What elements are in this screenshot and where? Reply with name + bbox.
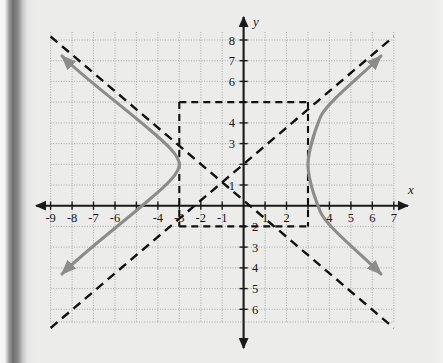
y-tick-label: 7 — [229, 54, 235, 68]
y-tick-labels-positive: 8 7 6 4 3 1 — [229, 34, 236, 193]
x-tick-label: -9 — [45, 211, 55, 225]
y-tick-label: 4 — [229, 116, 236, 130]
hyperbola-graph: y x -9 -8 -7 -6 -4 -3 -2 -1 1 2 4 5 6 7 — [0, 0, 443, 363]
y-tick-label: 4 — [252, 261, 259, 275]
x-tick-label: 1 — [262, 211, 268, 225]
left-branch-curve — [62, 56, 179, 274]
x-tick-label: 2 — [283, 211, 289, 225]
x-tick-label: -3 — [174, 211, 184, 225]
y-tick-label: 6 — [252, 303, 258, 317]
y-tick-label: 3 — [229, 137, 235, 151]
x-tick-label: 4 — [326, 211, 333, 225]
y-tick-label: 5 — [252, 282, 258, 296]
coordinate-plane-svg: y x -9 -8 -7 -6 -4 -3 -2 -1 1 2 4 5 6 7 — [0, 0, 443, 363]
x-tick-label: -7 — [88, 211, 98, 225]
y-axis-label: y — [251, 14, 259, 29]
x-tick-label: -6 — [110, 211, 120, 225]
figure-page: y x -9 -8 -7 -6 -4 -3 -2 -1 1 2 4 5 6 7 — [0, 0, 443, 363]
x-tick-label: -8 — [67, 211, 77, 225]
right-branch-curve — [308, 56, 381, 274]
grid-lines — [51, 32, 394, 322]
y-tick-label: 6 — [229, 75, 235, 89]
y-tick-label: 3 — [252, 241, 258, 255]
y-tick-label: 8 — [229, 34, 235, 48]
x-tick-label: 6 — [369, 211, 375, 225]
x-tick-label: 7 — [391, 211, 397, 225]
y-tick-label: 1 — [229, 179, 235, 193]
x-tick-label: -4 — [153, 211, 164, 225]
y-tick-label: 2 — [252, 220, 258, 234]
x-tick-labels-negative: -9 -8 -7 -6 -4 -3 -2 -1 — [45, 211, 227, 225]
x-axis-label: x — [407, 182, 414, 197]
x-tick-label: -1 — [217, 211, 227, 225]
y-tick-labels-negative: 2 3 4 5 6 — [252, 220, 259, 317]
hyperbola-branches — [62, 56, 381, 274]
x-tick-label: 5 — [348, 211, 354, 225]
x-tick-labels-positive: 1 2 4 5 6 7 — [262, 211, 397, 225]
x-tick-label: -2 — [196, 211, 206, 225]
